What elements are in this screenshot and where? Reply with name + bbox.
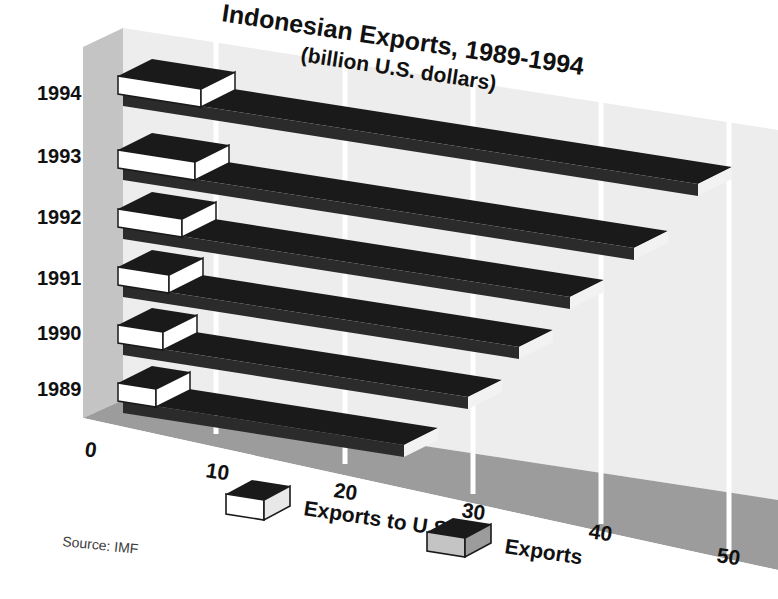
exports-3d-bar-chart: Indonesian Exports, 1989-1994 (billion U… (0, 0, 778, 599)
y-tick-1989: 1989 (37, 378, 82, 400)
y-tick-1994: 1994 (37, 82, 82, 104)
y-tick-1992: 1992 (37, 206, 82, 228)
chart-canvas: Indonesian Exports, 1989-1994 (billion U… (0, 0, 778, 599)
y-tick-1991: 1991 (37, 267, 82, 289)
y-tick-1993: 1993 (37, 145, 82, 167)
x-tick-50: 50 (715, 543, 742, 569)
left-side-wall (83, 28, 123, 418)
y-axis-labels: 1994 1993 1992 1991 1990 1989 (37, 82, 82, 400)
y-tick-1990: 1990 (37, 322, 82, 344)
x-tick-40: 40 (587, 519, 614, 545)
x-tick-10: 10 (204, 458, 231, 484)
